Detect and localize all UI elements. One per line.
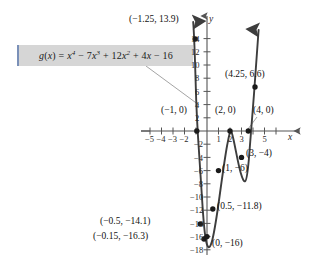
label-point-3-neg4: (3, −4) — [246, 148, 272, 158]
x-axis-label: x — [288, 132, 292, 142]
label-point-neg1-25-13-9: (−1.25, 13.9) — [129, 14, 179, 24]
equation-callout: g(x) = x4 − 7x3 + 12x2 + 4x − 16 — [17, 45, 193, 66]
y-tick-10: 10 — [191, 60, 200, 70]
y-tick-2: 2 — [195, 113, 199, 123]
y-axis-label: y — [209, 14, 213, 24]
y-tick-neg2: −2 — [194, 139, 203, 149]
equation-text: g(x) = x4 − 7x3 + 12x2 + 4x − 16 — [39, 49, 173, 61]
label-point-0-5-neg11-8: (0.5, −11.8) — [217, 201, 262, 211]
x-tick-neg4: −4 — [157, 134, 166, 144]
label-point-1-neg6: (1, −6) — [222, 163, 248, 173]
x-tick-neg2: −2 — [180, 134, 189, 144]
point-4-25-6-6 — [252, 84, 257, 89]
y-tick-neg14: −14 — [190, 219, 203, 229]
label-point-neg1-0: (−1, 0) — [161, 105, 187, 115]
y-tick-12: 12 — [191, 47, 200, 57]
y-tick-neg8: −8 — [194, 179, 203, 189]
y-tick-neg10: −10 — [190, 192, 203, 202]
label-point-neg0-5-neg14-1: (−0.5, −14.1) — [100, 216, 150, 226]
x-tick-5: 5 — [263, 134, 267, 144]
y-tick-neg12: −12 — [190, 205, 203, 215]
y-tick-neg4: −4 — [194, 153, 203, 163]
point-0-neg16 — [204, 234, 209, 239]
point-1-neg6 — [216, 168, 221, 173]
point-3-neg4 — [239, 155, 244, 160]
y-tick-6: 6 — [195, 87, 199, 97]
graph-figure: g(x) = x4 − 7x3 + 12x2 + 4x − 16 (−1.25,… — [0, 0, 314, 272]
y-tick-8: 8 — [195, 73, 199, 83]
x-tick-1: 1 — [217, 134, 221, 144]
y-tick-14: 14 — [191, 34, 200, 44]
y-tick-4: 4 — [195, 100, 199, 110]
label-point-neg0-15-neg16-3: (−0.15, −16.3) — [93, 231, 148, 241]
x-tick-neg5: −5 — [145, 134, 154, 144]
point-4-0 — [246, 128, 251, 133]
x-tick-3: 3 — [240, 134, 244, 144]
y-tick-neg6: −6 — [194, 166, 203, 176]
point-2-0 — [227, 128, 232, 133]
x-tick-neg3: −3 — [168, 134, 177, 144]
point-0-5-neg11-8 — [210, 206, 215, 211]
label-point-0-neg16: (0, −16) — [212, 238, 243, 248]
point-neg1-0 — [194, 128, 199, 133]
y-tick-neg18: −18 — [190, 245, 203, 255]
equation-leader-line — [146, 66, 199, 105]
label-point-4-25-6-6: (4.25, 6.6) — [225, 69, 265, 79]
x-tick-2: 2 — [228, 134, 232, 144]
label-point-2-0: (2, 0) — [215, 105, 236, 115]
y-axis — [204, 16, 211, 255]
y-tick-neg16: −16 — [190, 232, 203, 242]
label-point-4-0: (4, 0) — [253, 105, 274, 115]
